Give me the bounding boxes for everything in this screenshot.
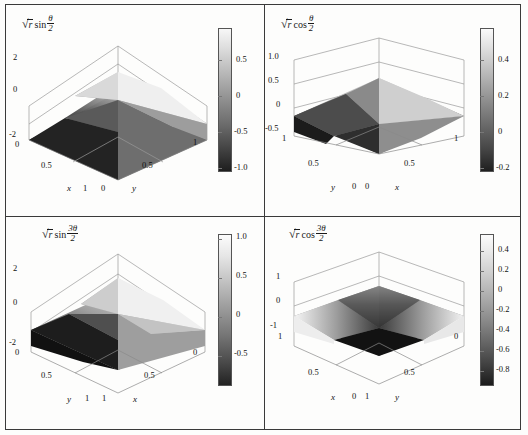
plot-panel-sqrt-r-cos-theta-half: √rcosθ2 xyxy=(264,4,523,216)
z-tick: 1.0 xyxy=(268,52,279,61)
z-tick: 1 xyxy=(276,272,280,281)
title-function: cos xyxy=(294,19,307,30)
colorbar-tick: 0.2 xyxy=(498,91,509,100)
colorbar-tick: 0.5 xyxy=(236,55,247,64)
panel-title: √rcosθ2 xyxy=(280,14,314,34)
x-axis-label: x xyxy=(133,395,137,404)
colorbar xyxy=(218,234,232,386)
colorbar-tick: -0.8 xyxy=(496,365,509,374)
colorbar xyxy=(480,234,494,386)
x-tick: 0 xyxy=(15,140,19,149)
colorbar-tick: -0.2 xyxy=(496,163,509,172)
z-tick: -0.5 xyxy=(265,124,278,133)
y-tick: 0 xyxy=(352,182,356,191)
plot-panel-sqrt-r-sin-3theta-half: √rsin3θ2 xyxy=(5,216,264,428)
y-tick: 0.5 xyxy=(308,159,319,168)
y-axis-label: y xyxy=(67,395,71,404)
panel-title: √rsinθ2 xyxy=(21,14,54,34)
radical-icon: √r xyxy=(41,228,53,240)
x-tick: 1 xyxy=(83,184,87,193)
colorbar-tick: -0.4 xyxy=(496,325,509,334)
colorbar-tick: 0 xyxy=(236,310,240,319)
x-tick: 0 xyxy=(193,348,197,357)
x-tick: 0.5 xyxy=(308,368,319,377)
x-tick: 1 xyxy=(454,134,458,143)
title-fraction: 3θ2 xyxy=(67,224,78,244)
title-function: sin xyxy=(55,229,67,240)
colorbar-tick: -0.5 xyxy=(234,349,247,358)
plot-panel-sqrt-r-cos-3theta-half: √rcos3θ2 xyxy=(264,216,523,428)
y-tick: 1 xyxy=(282,134,286,143)
colorbar-tick: 0.5 xyxy=(236,271,247,280)
title-fraction: 3θ2 xyxy=(316,224,327,244)
colorbar-tick: 0 xyxy=(498,127,502,136)
z-tick: 0 xyxy=(13,85,17,94)
title-fraction: θ2 xyxy=(308,14,315,34)
colorbar xyxy=(480,28,494,172)
panel-title: √rcos3θ2 xyxy=(288,224,327,244)
x-tick: 0 xyxy=(365,182,369,191)
x-tick: 1 xyxy=(102,394,106,403)
panel-title: √rsin3θ2 xyxy=(41,224,78,244)
y-tick: 0 xyxy=(101,184,105,193)
surface-plot-figure: √rsinθ2 xyxy=(0,0,528,435)
radical-icon: √r xyxy=(21,18,33,30)
x-axis-label: x xyxy=(395,183,399,192)
radical-icon: √r xyxy=(288,228,300,240)
y-tick: 1 xyxy=(193,138,197,147)
z-tick: 2 xyxy=(13,53,17,62)
y-tick: 0 xyxy=(15,348,19,357)
z-tick: 0 xyxy=(276,296,280,305)
z-tick: 0.5 xyxy=(268,76,279,85)
colorbar-tick: 0.4 xyxy=(498,55,509,64)
colorbar-tick: 0 xyxy=(236,91,240,100)
y-axis-label: y xyxy=(331,183,335,192)
colorbar xyxy=(218,28,232,172)
plot-panel-sqrt-r-sin-theta-half: √rsinθ2 xyxy=(5,4,264,216)
y-tick: 1 xyxy=(365,392,369,401)
colorbar-tick: 0.4 xyxy=(498,245,509,254)
colorbar-tick: 0.2 xyxy=(498,265,509,274)
x-tick: 0 xyxy=(352,392,356,401)
colorbar-tick: 1.0 xyxy=(236,232,247,241)
y-axis-label: y xyxy=(132,184,136,193)
z-tick: -2 xyxy=(9,130,16,139)
z-tick: -2 xyxy=(9,338,16,347)
radical-icon: √r xyxy=(280,18,292,30)
colorbar-tick: 0 xyxy=(498,285,502,294)
x-tick: 1 xyxy=(278,332,282,341)
z-tick: 2 xyxy=(13,264,17,273)
x-tick: 0.5 xyxy=(41,161,52,170)
z-tick: -1 xyxy=(270,321,277,330)
y-tick: 1 xyxy=(85,394,89,403)
title-function: cos xyxy=(302,229,315,240)
z-tick: 0 xyxy=(13,298,17,307)
z-tick: 0 xyxy=(276,100,280,109)
x-tick: 0.5 xyxy=(144,371,155,380)
x-tick: 0.5 xyxy=(404,159,415,168)
x-axis-label: x xyxy=(331,393,335,402)
title-function: sin xyxy=(35,19,47,30)
colorbar-tick: -1.0 xyxy=(234,163,247,172)
y-tick: 0 xyxy=(454,332,458,341)
title-fraction: θ2 xyxy=(47,14,54,34)
y-axis-label: y xyxy=(395,393,399,402)
y-tick: 0.5 xyxy=(142,161,153,170)
colorbar-tick: -0.6 xyxy=(496,345,509,354)
colorbar-tick: -0.5 xyxy=(234,127,247,136)
y-tick: 0.5 xyxy=(404,368,415,377)
colorbar-tick: -0.2 xyxy=(496,305,509,314)
y-tick: 0.5 xyxy=(41,371,52,380)
x-axis-label: x xyxy=(67,184,71,193)
